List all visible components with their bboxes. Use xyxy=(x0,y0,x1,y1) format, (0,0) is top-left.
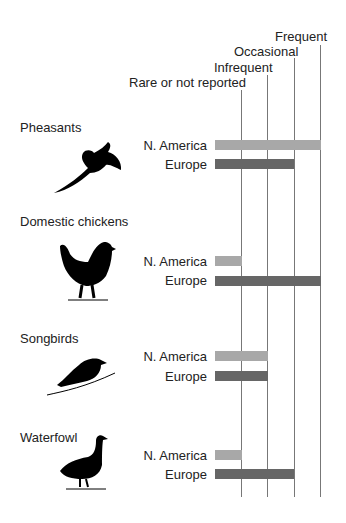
header-infrequent: Infrequent xyxy=(214,60,273,75)
bar-songbirds-na xyxy=(215,351,268,361)
row-label-na: N. America xyxy=(127,254,207,269)
goose-icon xyxy=(58,433,113,493)
gridline-infrequent xyxy=(267,75,268,497)
group-label-songbirds: Songbirds xyxy=(20,331,79,346)
bar-pheasants-na xyxy=(215,140,321,150)
chicken-icon xyxy=(58,240,118,305)
row-label-eu: Europe xyxy=(127,467,207,482)
row-label-eu: Europe xyxy=(127,157,207,172)
row-label-eu: Europe xyxy=(127,273,207,288)
header-occasional: Occasional xyxy=(234,44,298,59)
row-label-na: N. America xyxy=(127,448,207,463)
bar-songbirds-eu xyxy=(215,371,268,381)
header-frequent: Frequent xyxy=(275,29,327,44)
group-label-chickens: Domestic chickens xyxy=(20,214,128,229)
bar-waterfowl-eu xyxy=(215,469,294,479)
gridline-frequent xyxy=(320,45,321,497)
group-label-pheasants: Pheasants xyxy=(20,120,81,135)
songbird-icon xyxy=(45,355,120,397)
row-label-na: N. America xyxy=(127,138,207,153)
bar-chickens-na xyxy=(215,256,242,266)
row-label-na: N. America xyxy=(127,349,207,364)
bar-waterfowl-na xyxy=(215,450,242,460)
bar-chickens-eu xyxy=(215,276,321,286)
pheasant-icon xyxy=(50,140,125,195)
bar-pheasants-eu xyxy=(215,159,294,169)
header-rare: Rare or not reported xyxy=(129,75,246,90)
row-label-eu: Europe xyxy=(127,369,207,384)
gridline-rare xyxy=(241,90,242,497)
